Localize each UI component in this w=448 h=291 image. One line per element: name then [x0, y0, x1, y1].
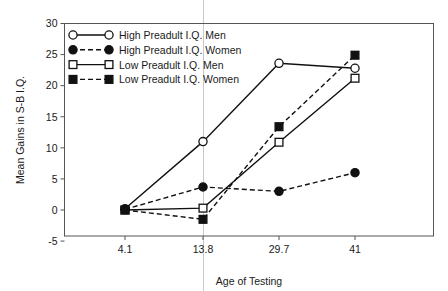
legend-marker	[69, 31, 77, 39]
data-point	[121, 206, 129, 214]
x-tick-label: 13.8	[193, 243, 214, 255]
legend-label: High Preadult I.Q. Men	[119, 29, 226, 41]
x-axis-title: Age of Testing	[216, 275, 283, 287]
legend-marker	[105, 61, 113, 69]
data-point	[351, 51, 359, 59]
x-tick-label: 4.1	[118, 243, 133, 255]
data-point	[351, 74, 359, 82]
y-tick-label: 30	[46, 17, 58, 29]
y-tick-label: 20	[46, 79, 58, 91]
data-point	[351, 64, 359, 72]
legend-marker	[69, 46, 77, 54]
data-point	[199, 215, 207, 223]
y-tick-label: 0	[52, 204, 58, 216]
x-tick-label: 29.7	[269, 243, 290, 255]
legend-marker	[69, 61, 77, 69]
y-axis-title: Mean Gains in S-B I.Q.	[14, 76, 26, 184]
legend-marker	[105, 31, 113, 39]
legend-marker	[105, 46, 113, 54]
y-tick-label: 5	[52, 173, 58, 185]
legend-marker	[105, 76, 113, 84]
data-point	[351, 169, 359, 177]
line-chart: -5051015202530 4.113.829.741 High Preadu…	[0, 0, 448, 291]
data-point	[275, 138, 283, 146]
data-point	[199, 204, 207, 212]
x-tick-label: 41	[349, 243, 361, 255]
data-point	[199, 183, 207, 191]
legend-label: Low Preadult I.Q. Men	[119, 59, 224, 71]
legend-label: Low Preadult I.Q. Women	[119, 73, 239, 85]
legend-label: High Preadult I.Q. Women	[119, 44, 242, 56]
legend-marker	[69, 76, 77, 84]
y-tick-label: 25	[46, 48, 58, 60]
data-point	[275, 123, 283, 131]
y-tick-label: -5	[48, 235, 57, 247]
data-point	[275, 187, 283, 195]
y-tick-label: 15	[46, 111, 58, 123]
data-point	[275, 59, 283, 67]
data-point	[199, 138, 207, 146]
y-tick-label: 10	[46, 142, 58, 154]
